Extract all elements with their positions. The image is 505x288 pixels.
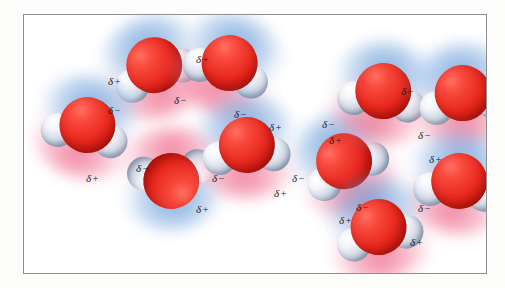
- charge-sign: −: [298, 173, 305, 184]
- delta-symbol: δ: [418, 202, 424, 214]
- charge-label-delta-plus-11: δ+: [410, 237, 423, 248]
- charge-sign: +: [114, 76, 121, 87]
- charge-label-delta-minus-8: δ−: [418, 130, 431, 141]
- charge-sign: +: [416, 237, 423, 248]
- charge-sign: +: [435, 154, 442, 165]
- charge-label-delta-minus-9: δ−: [418, 203, 431, 214]
- charge-sign: +: [407, 86, 414, 97]
- charge-sign: −: [424, 130, 431, 141]
- delta-symbol: δ: [339, 214, 345, 226]
- charge-label-delta-minus-4: δ−: [136, 163, 149, 174]
- delta-symbol: δ: [274, 187, 280, 199]
- charge-sign: −: [142, 163, 149, 174]
- charge-sign: +: [335, 135, 342, 146]
- charge-label-delta-plus-8: δ+: [401, 86, 414, 97]
- molecule-canvas: δ+δ−δ+δ−δ−δ+δ+δ−δ−δ+δ−δ+δ+δ−δ+δ−δ+δ−δ−δ+…: [24, 15, 486, 273]
- charge-sign: −: [114, 105, 121, 116]
- figure-screenshot: δ+δ−δ+δ−δ−δ+δ+δ−δ−δ+δ−δ+δ+δ−δ+δ−δ+δ−δ−δ+…: [0, 0, 505, 288]
- delta-symbol: δ: [86, 172, 92, 184]
- charge-label-delta-minus-3: δ−: [234, 109, 247, 120]
- charge-sign: −: [362, 202, 369, 213]
- water-molecule-far-right-top: [415, 51, 487, 138]
- charge-sign: +: [280, 188, 287, 199]
- charge-label-delta-plus-5: δ+: [196, 204, 209, 215]
- charge-sign: −: [180, 95, 187, 106]
- charge-label-delta-plus-6: δ+: [274, 188, 287, 199]
- charge-label-delta-plus-10: δ+: [339, 215, 352, 226]
- charge-sign: −: [218, 173, 225, 184]
- delta-symbol: δ: [212, 172, 218, 184]
- delta-symbol: δ: [234, 108, 240, 120]
- delta-symbol: δ: [174, 94, 180, 106]
- figure-frame: δ+δ−δ+δ−δ−δ+δ+δ−δ−δ+δ−δ+δ+δ−δ+δ−δ+δ−δ−δ+…: [23, 14, 487, 274]
- charge-label-delta-minus-5: δ−: [212, 173, 225, 184]
- delta-symbol: δ: [269, 121, 275, 133]
- delta-symbol: δ: [196, 203, 202, 215]
- charge-sign: +: [202, 204, 209, 215]
- charge-sign: +: [92, 173, 99, 184]
- delta-symbol: δ: [136, 162, 142, 174]
- delta-symbol: δ: [418, 129, 424, 141]
- delta-symbol: δ: [196, 53, 202, 65]
- charge-label-delta-minus-7: δ−: [322, 119, 335, 130]
- charge-label-delta-plus-7: δ+: [329, 135, 342, 146]
- delta-symbol: δ: [410, 236, 416, 248]
- charge-label-delta-plus-9: δ+: [429, 154, 442, 165]
- charge-sign: −: [328, 119, 335, 130]
- charge-label-delta-plus-3: δ+: [269, 122, 282, 133]
- charge-label-delta-plus-2: δ+: [196, 54, 209, 65]
- delta-symbol: δ: [108, 75, 114, 87]
- charge-label-delta-minus-6: δ−: [292, 173, 305, 184]
- charge-sign: −: [424, 203, 431, 214]
- water-molecule-bottom-right: [328, 182, 430, 274]
- delta-symbol: δ: [322, 118, 328, 130]
- charge-sign: +: [275, 122, 282, 133]
- delta-symbol: δ: [401, 85, 407, 97]
- delta-symbol: δ: [292, 172, 298, 184]
- charge-label-delta-plus-1: δ+: [108, 76, 121, 87]
- charge-label-delta-minus-2: δ−: [174, 95, 187, 106]
- delta-symbol: δ: [356, 201, 362, 213]
- charge-label-delta-minus-10: δ−: [356, 202, 369, 213]
- charge-sign: −: [240, 109, 247, 120]
- charge-sign: +: [202, 54, 209, 65]
- charge-label-delta-plus-4: δ+: [86, 173, 99, 184]
- delta-symbol: δ: [429, 153, 435, 165]
- delta-symbol: δ: [329, 134, 335, 146]
- delta-symbol: δ: [108, 104, 114, 116]
- charge-label-delta-minus-1: δ−: [108, 105, 121, 116]
- charge-sign: +: [345, 215, 352, 226]
